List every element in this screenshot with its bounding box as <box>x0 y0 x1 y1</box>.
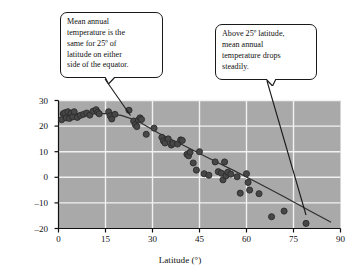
callout-text-line: Mean annual <box>67 17 157 28</box>
callout-text-line: temperature drops <box>222 51 311 62</box>
callout-text-line: side of the equator. <box>67 60 157 71</box>
callout-drop-tail <box>266 79 276 86</box>
y-tick-label: –20 <box>14 224 48 234</box>
callout-text-line: temperature is the <box>67 28 157 39</box>
x-tick-label: 15 <box>94 234 118 244</box>
callout-drop-text: Above 25º latitude,mean annualtemperatur… <box>222 29 311 72</box>
callout-equator: Mean annualtemperature is thesame for 25… <box>60 12 163 78</box>
callout-drop: Above 25º latitude,mean annualtemperatur… <box>215 24 317 80</box>
x-tick-label: 90 <box>329 234 353 244</box>
x-tick-label: 0 <box>47 234 71 244</box>
callout-text-line: same for 25º of <box>67 39 157 50</box>
y-tick-label: 10 <box>14 147 48 157</box>
callout-text-line: Above 25º latitude, <box>222 29 311 40</box>
x-tick-label: 30 <box>141 234 165 244</box>
callout-equator-tail <box>105 77 115 84</box>
x-axis-title: Latitude (°) <box>0 255 360 265</box>
x-tick-label: 75 <box>282 234 306 244</box>
y-tick-label: 0 <box>14 172 48 182</box>
y-tick-label: 30 <box>14 96 48 106</box>
callout-text-line: mean annual <box>222 40 311 51</box>
scatter-plot-figure: 3020100–10–20 0153045607590 Mean annual … <box>0 0 360 276</box>
x-tick-label: 60 <box>235 234 259 244</box>
y-tick-label: 20 <box>14 121 48 131</box>
x-axis-tick-labels: 0153045607590 <box>0 234 360 248</box>
y-tick-label: –10 <box>14 198 48 208</box>
callout-text-line: steadily. <box>222 62 311 73</box>
x-tick-label: 45 <box>188 234 212 244</box>
callout-equator-text: Mean annualtemperature is thesame for 25… <box>67 17 157 71</box>
callout-text-line: latitude on either <box>67 50 157 61</box>
